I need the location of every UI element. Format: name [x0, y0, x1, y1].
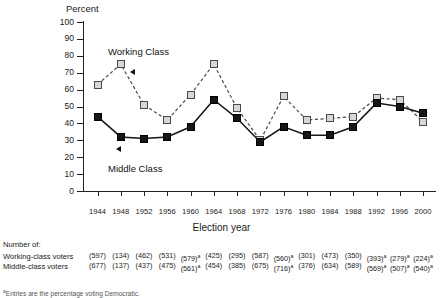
- working-class-point: [210, 60, 218, 68]
- y-axis-tick: [77, 22, 83, 23]
- x-axis-tick: [214, 192, 215, 196]
- working-class-point: [117, 60, 125, 68]
- working-class-point: [303, 116, 311, 124]
- middle-class-point: [280, 123, 288, 131]
- y-axis-tick-label: 0: [48, 187, 74, 196]
- middle-class-pointer-icon: [116, 146, 121, 152]
- x-axis-tick: [330, 192, 331, 196]
- y-axis-tick-label: 60: [48, 85, 74, 94]
- working-class-point: [163, 116, 171, 124]
- x-axis-tick: [260, 192, 261, 196]
- x-axis-tick: [237, 192, 238, 196]
- y-axis-tick-label: 50: [48, 102, 74, 111]
- working-class-pointer-icon: [130, 69, 135, 75]
- x-axis-title: Election year: [0, 222, 443, 233]
- working-class-point: [280, 92, 288, 100]
- y-axis-tick-label: 80: [48, 51, 74, 60]
- middle-class-point: [349, 123, 357, 131]
- y-axis-tick: [77, 90, 83, 91]
- x-axis-tick-label: 2000: [406, 208, 440, 216]
- y-axis-tick-label: 70: [48, 68, 74, 77]
- y-axis-tick: [77, 39, 83, 40]
- y-axis-tick: [77, 140, 83, 141]
- x-axis-tick: [167, 192, 168, 196]
- middle-class-point: [187, 123, 195, 131]
- chart-page: Percent 1009080706050403020100 194419481…: [0, 0, 443, 298]
- y-axis-tick: [77, 107, 83, 108]
- y-axis-tick: [77, 56, 83, 57]
- sample-size-title: Number of:: [3, 240, 41, 249]
- y-axis-tick: [77, 174, 83, 175]
- x-axis-tick: [377, 192, 378, 196]
- working-class-point: [233, 104, 241, 112]
- y-axis-tick: [77, 123, 83, 124]
- middle-class-point: [303, 131, 311, 139]
- x-axis-tick: [284, 192, 285, 196]
- y-axis-line: [83, 21, 84, 192]
- x-axis-tick: [191, 192, 192, 196]
- x-axis-tick: [98, 192, 99, 196]
- working-class-point: [419, 118, 427, 126]
- x-axis-tick: [144, 192, 145, 196]
- sample-size-cell: (540)a: [406, 262, 440, 273]
- y-axis-tick: [77, 73, 83, 74]
- middle-class-point: [117, 133, 125, 141]
- y-axis-tick-label: 100: [48, 18, 74, 27]
- row-label-middle-class: Middle-class voters: [3, 262, 68, 271]
- y-axis-tick-label: 30: [48, 136, 74, 145]
- middle-class-point: [419, 109, 427, 117]
- y-axis-tick: [77, 157, 83, 158]
- x-axis-tick: [400, 192, 401, 196]
- table-footnote: aEntries are the percentage voting Democ…: [3, 288, 140, 297]
- middle-class-point: [163, 133, 171, 141]
- middle-class-point: [233, 114, 241, 122]
- y-axis-tick: [77, 191, 83, 192]
- middle-class-point: [396, 103, 404, 111]
- y-axis-tick-label: 20: [48, 153, 74, 162]
- working-class-point: [187, 91, 195, 99]
- working-class-point: [326, 114, 334, 122]
- working-class-point: [94, 81, 102, 89]
- middle-class-point: [140, 135, 148, 143]
- y-axis-title: Percent: [66, 3, 99, 14]
- working-class-point: [140, 101, 148, 109]
- x-axis-tick: [121, 192, 122, 196]
- middle-class-point: [256, 138, 264, 146]
- working-class-label: Working Class: [108, 46, 169, 57]
- y-axis-tick-label: 40: [48, 119, 74, 128]
- x-axis-tick: [353, 192, 354, 196]
- working-class-point: [349, 113, 357, 121]
- middle-class-point: [326, 131, 334, 139]
- row-values-middle-class: (677)(137)(437)(475)(561)a(454)(385)(675…: [112, 262, 443, 273]
- row-label-working-class: Working-class voters: [3, 252, 73, 261]
- middle-class-point: [94, 113, 102, 121]
- middle-class-point: [210, 96, 218, 104]
- middle-class-point: [373, 99, 381, 107]
- y-axis-tick-label: 90: [48, 34, 74, 43]
- middle-class-label: Middle Class: [108, 163, 162, 174]
- x-axis-tick: [423, 192, 424, 196]
- y-axis-tick-label: 10: [48, 170, 74, 179]
- x-axis-tick: [307, 192, 308, 196]
